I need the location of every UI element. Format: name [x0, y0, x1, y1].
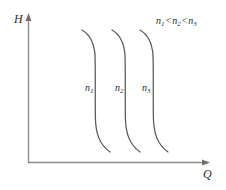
curve-label-n3-subscript: 3: [147, 87, 151, 95]
x-axis-label: Q: [203, 168, 212, 180]
legend-relation-1: <: [166, 15, 172, 26]
pump-characteristic-figure: H Q n1 n2 n3 n1<n2<n3: [0, 0, 226, 190]
y-axis-label: H: [14, 13, 23, 25]
legend-inequality-annotation: n1<n2<n3: [156, 16, 197, 26]
curve-label-n1: n1: [85, 83, 94, 93]
legend-n1-subscript: 1: [161, 20, 165, 28]
y-axis-arrowhead-icon: [26, 13, 32, 21]
figure-canvas: [0, 0, 226, 190]
legend-n2-subscript: 2: [177, 20, 181, 28]
legend-n3-subscript: 3: [193, 20, 197, 28]
x-axis-arrowhead-icon: [202, 160, 210, 166]
curve-label-n2: n2: [115, 83, 124, 93]
curve-label-n2-subscript: 2: [120, 87, 124, 95]
legend-relation-2: <: [182, 15, 188, 26]
curve-label-n1-subscript: 1: [90, 87, 94, 95]
curve-label-n3: n3: [142, 83, 151, 93]
